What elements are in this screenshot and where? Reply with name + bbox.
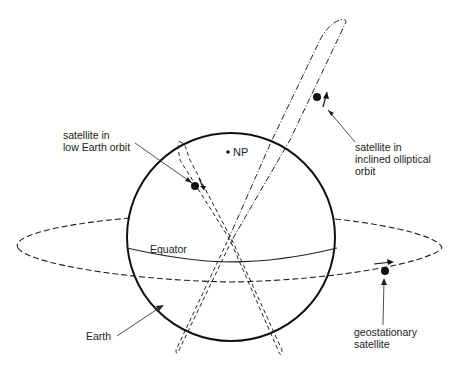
leo-orbit-lower: [176, 240, 232, 353]
heo-pointer-head-icon: [328, 110, 334, 116]
earth-sphere: [127, 133, 335, 341]
north-pole-label: NP: [233, 146, 248, 158]
geo-arrowhead-icon: [387, 259, 394, 265]
earth-label: Earth: [86, 330, 111, 342]
heo-arrowhead-icon: [323, 92, 329, 99]
equator-label: Equator: [150, 243, 187, 255]
heo-orbit: [228, 19, 346, 240]
geo-orbit-back-right: [335, 219, 442, 248]
geo-satellite-dot: [381, 267, 389, 275]
heo-satellite-dot: [313, 93, 321, 101]
orbit-diagram: [0, 0, 460, 372]
leo-satellite-dot: [191, 182, 199, 190]
earth-pointer: [117, 306, 162, 336]
leo-orbit: [178, 142, 282, 355]
geo-orbit-back: [17, 218, 130, 248]
leo-arrowhead-icon: [200, 186, 206, 190]
leo-label: satellite in low Earth orbit: [63, 129, 130, 153]
geo-pointer-head-icon: [381, 278, 387, 285]
geo-orbit-front: [18, 248, 442, 282]
north-pole-dot: [226, 150, 230, 154]
geo-label: geostationary satellite: [354, 326, 417, 350]
leo-pointer: [135, 143, 192, 183]
geo-pointer: [383, 280, 384, 325]
heo-label: satellite in inclined olliptical orbit: [355, 141, 431, 177]
